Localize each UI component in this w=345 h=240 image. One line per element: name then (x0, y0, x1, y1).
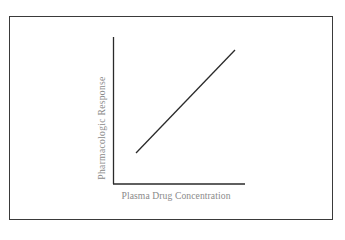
response-line (136, 50, 235, 153)
y-axis-label: Pharmacologic Response (96, 76, 107, 179)
x-axis-label: Plasma Drug Concentration (113, 190, 239, 201)
